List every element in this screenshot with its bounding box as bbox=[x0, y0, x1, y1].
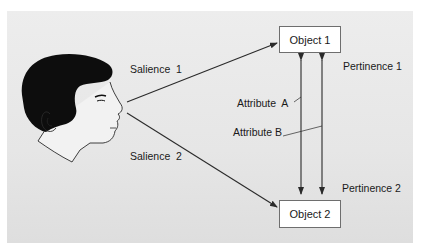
object-1-box: Object 1 bbox=[279, 26, 341, 53]
salience-2-label: Salience 2 bbox=[130, 151, 182, 162]
attribute-a-label: Attribute A bbox=[237, 98, 288, 109]
object-2-label: Object 2 bbox=[290, 208, 331, 220]
salience-1-label: Salience 1 bbox=[130, 64, 182, 75]
pertinence-1-label: Pertinence 1 bbox=[343, 61, 402, 72]
attribute-b-leader bbox=[283, 126, 322, 136]
attribute-a-leader bbox=[294, 97, 301, 102]
object-2-box: Object 2 bbox=[279, 200, 341, 228]
object-1-label: Object 1 bbox=[290, 34, 331, 46]
diagram-canvas bbox=[0, 0, 423, 250]
attribute-b-label: Attribute B bbox=[233, 127, 282, 138]
pertinence-2-label: Pertinence 2 bbox=[342, 183, 401, 194]
observer-head-icon bbox=[22, 54, 122, 162]
